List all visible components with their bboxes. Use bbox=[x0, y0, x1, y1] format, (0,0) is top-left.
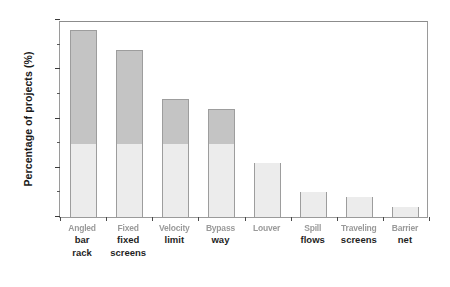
x-tick-0 bbox=[60, 217, 61, 221]
bar-6-lower-segment bbox=[347, 197, 372, 217]
x-category-label-6: Travelingscreens bbox=[336, 223, 382, 247]
bar-3 bbox=[208, 109, 235, 217]
x-tick-3 bbox=[198, 217, 199, 221]
x-category-1-line2: screens bbox=[105, 247, 151, 260]
x-category-label-2: Velocitylimit bbox=[151, 223, 197, 247]
y-tick-20 bbox=[55, 118, 60, 119]
bar-6 bbox=[346, 197, 373, 217]
bar-chart-figure: Percentage of projects (%) 010203040 Ang… bbox=[0, 0, 450, 287]
x-tick-7 bbox=[383, 217, 384, 221]
y-tick-40 bbox=[55, 19, 60, 20]
y-minor-tick-25 bbox=[57, 93, 60, 94]
x-category-5-smudged-line: Spill bbox=[290, 223, 336, 234]
x-category-4-smudged-line: Louver bbox=[244, 223, 290, 234]
bar-1-upper-segment bbox=[117, 51, 142, 145]
bar-2 bbox=[162, 99, 189, 217]
plot-area: 010203040 bbox=[59, 21, 428, 218]
bar-2-upper-segment bbox=[163, 100, 188, 144]
x-tick-4 bbox=[245, 217, 246, 221]
x-tick-1 bbox=[106, 217, 107, 221]
bar-7 bbox=[392, 207, 419, 217]
x-category-label-3: Bypassway bbox=[197, 223, 243, 247]
bar-5-lower-segment bbox=[301, 192, 326, 217]
x-category-6-line1: screens bbox=[336, 234, 382, 247]
bar-3-lower-segment bbox=[209, 143, 234, 217]
y-tick-10 bbox=[55, 167, 60, 168]
x-tick-5 bbox=[291, 217, 292, 221]
bar-0-upper-segment bbox=[71, 31, 96, 144]
bar-1 bbox=[116, 50, 143, 217]
bar-4 bbox=[254, 163, 281, 217]
y-minor-tick-35 bbox=[57, 44, 60, 45]
x-category-1-line1: fixed bbox=[105, 234, 151, 247]
x-category-2-line1: limit bbox=[151, 234, 197, 247]
x-category-7-smudged-line: Barrier bbox=[382, 223, 428, 234]
x-category-3-line1: way bbox=[197, 234, 243, 247]
x-category-label-0: Angledbarrack bbox=[59, 223, 105, 259]
bar-3-upper-segment bbox=[209, 110, 234, 144]
y-tick-30 bbox=[55, 68, 60, 69]
x-category-label-7: Barriernet bbox=[382, 223, 428, 247]
bar-0 bbox=[70, 30, 97, 217]
x-category-3-smudged-line: Bypass bbox=[197, 223, 243, 234]
bar-4-lower-segment bbox=[255, 163, 280, 217]
bar-1-lower-segment bbox=[117, 143, 142, 217]
x-tick-2 bbox=[152, 217, 153, 221]
y-minor-tick-15 bbox=[57, 142, 60, 143]
x-category-0-smudged-line: Angled bbox=[59, 223, 105, 234]
bar-2-lower-segment bbox=[163, 143, 188, 217]
x-category-7-line1: net bbox=[382, 234, 428, 247]
y-minor-tick-5 bbox=[57, 191, 60, 192]
x-category-label-5: Spillflows bbox=[290, 223, 336, 247]
x-category-label-1: Fixedfixedscreens bbox=[105, 223, 151, 259]
bar-0-lower-segment bbox=[71, 143, 96, 217]
x-category-5-line1: flows bbox=[290, 234, 336, 247]
y-axis-title: Percentage of projects (%) bbox=[22, 19, 34, 219]
x-category-1-smudged-line: Fixed bbox=[105, 223, 151, 234]
bar-5 bbox=[300, 192, 327, 217]
x-tick-6 bbox=[337, 217, 338, 221]
x-category-2-smudged-line: Velocity bbox=[151, 223, 197, 234]
x-category-6-smudged-line: Traveling bbox=[336, 223, 382, 234]
x-category-0-line2: rack bbox=[59, 247, 105, 260]
x-category-0-line1: bar bbox=[59, 234, 105, 247]
x-category-label-4: Louver bbox=[244, 223, 290, 234]
bar-7-lower-segment bbox=[393, 207, 418, 217]
x-tick-end bbox=[429, 217, 430, 221]
